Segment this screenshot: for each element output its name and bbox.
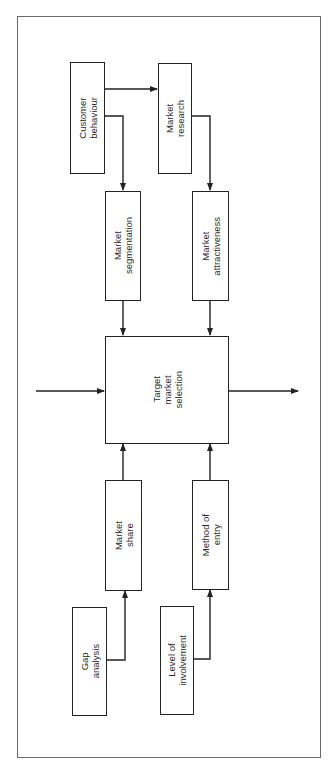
node-label: Method of entry (200, 514, 222, 556)
node-market-attractiveness: Market attractiveness (192, 191, 229, 301)
node-label: Market research (164, 100, 186, 137)
node-label: Market attractiveness (200, 217, 222, 276)
node-target-market-selection: Target market selection (105, 336, 229, 444)
arrow-involvement-to-entry (193, 590, 210, 659)
node-label: Target market selection (151, 371, 184, 409)
arrow-customer-to-segmentation (104, 116, 123, 190)
node-level-of-involvement: Level of involvement (160, 606, 194, 715)
arrow-research-to-attractiveness (191, 116, 210, 190)
diagram-canvas: Customer behaviour Market research Marke… (0, 0, 335, 769)
node-customer-behaviour: Customer behaviour (70, 62, 105, 174)
node-label: Level of involvement (166, 635, 188, 686)
node-market-share: Market share (105, 480, 142, 591)
node-label: Market segmentation (112, 217, 134, 274)
arrow-gap-to-share (106, 591, 125, 660)
node-label: Customer behaviour (77, 97, 99, 139)
node-market-segmentation: Market segmentation (105, 191, 141, 301)
node-market-research: Market research (158, 63, 192, 174)
node-method-of-entry: Method of entry (192, 480, 229, 590)
node-label: Market share (113, 521, 135, 550)
node-gap-analysis: Gap analysis (72, 607, 107, 716)
node-label: Gap analysis (79, 644, 101, 678)
